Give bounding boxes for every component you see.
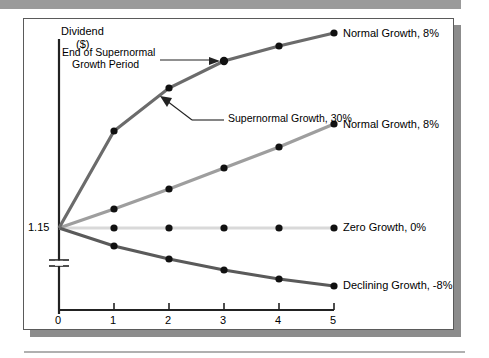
marker-declining-growth-y5	[330, 282, 337, 289]
annotation-end-of-supernormal-line2: Growth Period	[62, 59, 139, 71]
marker-supernormal-growth-y1	[110, 127, 117, 134]
marker-declining-growth-y3	[220, 266, 227, 273]
series-label-declining-growth: Declining Growth, -8%	[343, 279, 452, 291]
x-tick-label-0: 0	[55, 314, 61, 326]
x-tick-label-1: 1	[110, 314, 116, 326]
leader-line-supernormal-callout-diag	[167, 101, 192, 120]
marker-normal-growth-y1	[110, 205, 117, 212]
marker-supernormal-growth-y2	[165, 84, 172, 91]
series-line-normal-growth	[59, 124, 334, 228]
annotation-end-of-supernormal: End of Supernormal Growth Period	[62, 47, 162, 71]
marker-normal-growth-y3	[220, 164, 227, 171]
arrowhead-supernormal-callout	[160, 96, 172, 107]
bottom-decorative-rule	[24, 351, 465, 353]
figure-frame: Dividend ($) 1.15 0 1 2 3 4 5 Years Norm…	[23, 18, 454, 330]
annotation-supernormal-callout: Supernormal Growth, 30%	[228, 113, 352, 125]
marker-supernormal-growth-y4	[275, 42, 282, 49]
top-decorative-bar	[0, 0, 461, 9]
x-tick-label-4: 4	[275, 314, 281, 326]
marker-normal-growth-y2	[165, 185, 172, 192]
marker-normal-growth-y4	[275, 143, 282, 150]
series-label-zero-growth: Zero Growth, 0%	[343, 221, 426, 233]
marker-zero-growth-y4	[275, 224, 282, 231]
series-label-normal-growth: Normal Growth, 8%	[343, 118, 439, 130]
x-tick-label-2: 2	[165, 314, 171, 326]
y-axis-break-gap	[55, 261, 63, 266]
marker-zero-growth-y2	[165, 224, 172, 231]
y-axis-title-line1: Dividend	[61, 25, 104, 37]
series-label-supernormal-end: Normal Growth, 8%	[343, 27, 439, 39]
annotation-end-of-supernormal-line1: End of Supernormal	[62, 46, 155, 58]
marker-declining-growth-y4	[275, 275, 282, 282]
marker-supernormal-growth-y3	[220, 57, 228, 65]
marker-declining-growth-y2	[165, 255, 172, 262]
x-tick-label-3: 3	[220, 314, 226, 326]
marker-zero-growth-y5	[330, 224, 337, 231]
x-tick-label-5: 5	[330, 314, 336, 326]
base-dividend-value-label: 1.15	[28, 221, 49, 233]
marker-declining-growth-y1	[110, 242, 117, 249]
series-line-declining-growth	[59, 228, 334, 286]
marker-zero-growth-y1	[110, 224, 117, 231]
marker-zero-growth-y3	[220, 224, 227, 231]
figure-page: Dividend ($) 1.15 0 1 2 3 4 5 Years Norm…	[0, 0, 489, 358]
marker-supernormal-growth-y5	[330, 29, 337, 36]
